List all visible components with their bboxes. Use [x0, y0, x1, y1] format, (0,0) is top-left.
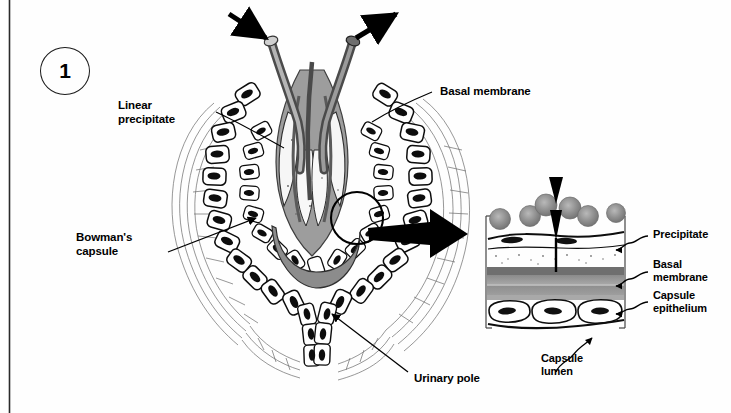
glomerulus-illustration [0, 0, 731, 413]
efferent-arteriole-arrow [356, 14, 396, 38]
label-urinary-pole: Urinary pole [414, 372, 480, 386]
capsule-epithelium-inset [488, 300, 624, 328]
afferent-arteriole-arrow [229, 14, 266, 38]
filtration-direction-marker [549, 177, 563, 272]
figure-number-badge: 1 [40, 47, 90, 95]
label-basal-membrane-main: Basal membrane [440, 85, 531, 99]
label-bowmans-capsule: Bowman's capsule [76, 231, 132, 258]
label-capsule-epithelium: Capsule epithelium [653, 289, 707, 315]
label-linear-precipitate: Linear precipitate [118, 99, 175, 126]
label-basal-membrane-inset: Basal membrane [653, 258, 708, 284]
label-precipitate-inset: Precipitate [653, 228, 708, 241]
glomerulus-group [172, 14, 470, 380]
label-capsule-lumen: Capsule lumen [541, 352, 583, 378]
figure-panel: 1 Linear precipitate Basal membrane Bowm… [0, 0, 731, 413]
filtration-barrier-inset [486, 177, 626, 328]
urinary-pole-tubule [242, 301, 394, 380]
